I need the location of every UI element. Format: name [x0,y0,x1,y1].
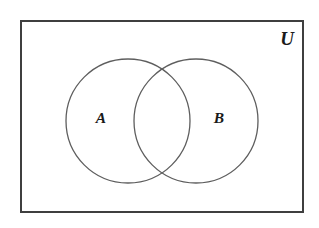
set-b-circle [134,59,258,183]
set-a-circle [66,59,190,183]
set-a-label: A [95,109,106,126]
venn-diagram-figure: U A B [0,0,319,228]
set-b-label: B [213,109,224,126]
venn-diagram-canvas: U A B [0,0,319,228]
universal-set-rectangle [21,21,303,212]
universal-set-label: U [280,28,295,49]
